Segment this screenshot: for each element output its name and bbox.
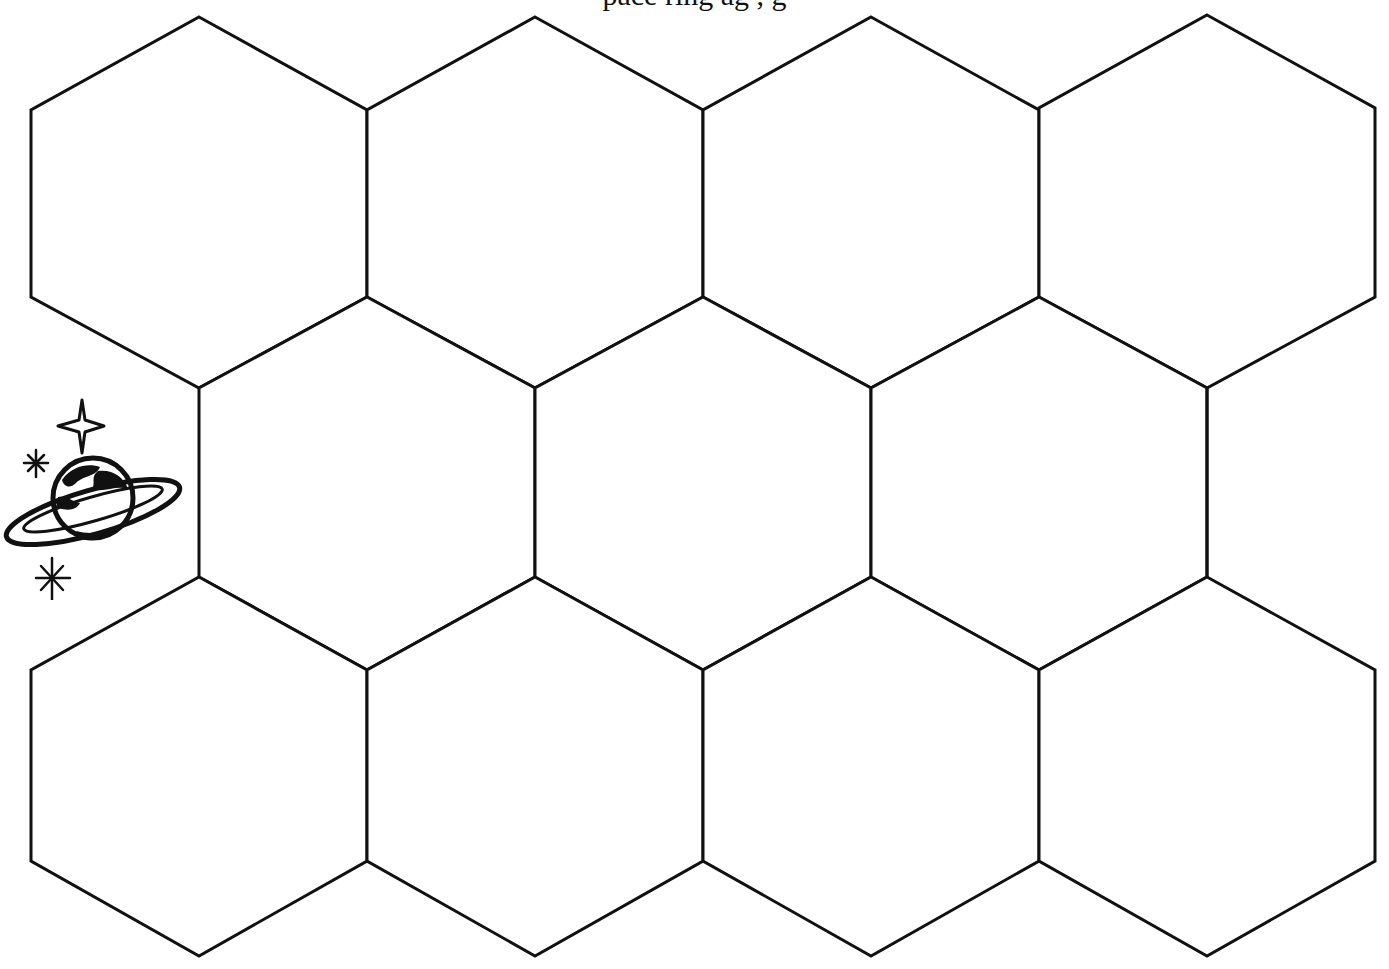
- hex-board: [0, 0, 1389, 969]
- ringed-planet-icon: [0, 385, 190, 600]
- sparkle-icon: [36, 558, 70, 600]
- sparkle-icon: [24, 450, 48, 477]
- four-point-star-icon: [58, 400, 104, 453]
